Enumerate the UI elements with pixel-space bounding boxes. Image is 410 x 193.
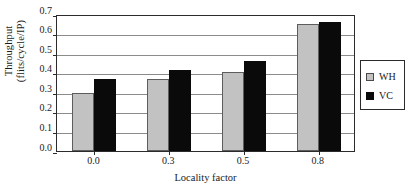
legend-swatch-wh-icon [366, 73, 374, 81]
x-axis-tick-label: 0.3 [148, 155, 188, 166]
bar-vc-0.3 [169, 70, 191, 151]
bar-chart-figure: Throughput (flits/cycle/IP) 0.00.10.20.3… [0, 0, 410, 193]
y-axis-tick-label: 0.6 [26, 24, 52, 35]
y-axis-tick-mark [53, 153, 57, 154]
legend-label: VC [379, 91, 393, 101]
y-axis-tick-label: 0.3 [26, 82, 52, 93]
y-axis-title-line2: (flits/cycle/IP) [15, 0, 27, 116]
x-axis-tick-labels: 0.00.30.50.8 [56, 155, 355, 169]
plot-area [56, 15, 355, 152]
bar-group-container [57, 16, 354, 151]
bar-vc-0.0 [94, 79, 116, 151]
x-axis-tick-label: 0.8 [298, 155, 338, 166]
bar-vc-0.8 [319, 22, 341, 151]
legend-item-wh: WH [366, 67, 404, 86]
y-axis-tick-labels: 0.00.10.20.30.40.50.60.7 [26, 9, 52, 153]
x-axis-tick-label: 0.5 [223, 155, 263, 166]
y-axis-tick-label: 0.7 [26, 4, 52, 15]
bar-wh-0.0 [72, 93, 94, 151]
bar-wh-0.5 [222, 72, 244, 151]
y-axis-title-line1: Throughput [3, 0, 15, 116]
legend-swatch-vc-icon [366, 92, 374, 100]
y-axis-tick-label: 0.4 [26, 63, 52, 74]
bar-vc-0.5 [244, 61, 266, 151]
y-axis-tick-label: 0.0 [26, 141, 52, 152]
bar-wh-0.8 [297, 24, 319, 151]
y-axis-tick-label: 0.1 [26, 121, 52, 132]
y-axis-tick-label: 0.2 [26, 102, 52, 113]
bar-wh-0.3 [147, 79, 169, 151]
legend-label: WH [379, 72, 396, 82]
x-axis-title: Locality factor [56, 172, 355, 183]
x-axis-tick-label: 0.0 [73, 155, 113, 166]
legend: WHVC [360, 60, 405, 110]
y-axis-tick-label: 0.5 [26, 43, 52, 54]
legend-item-vc: VC [366, 86, 404, 105]
